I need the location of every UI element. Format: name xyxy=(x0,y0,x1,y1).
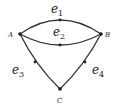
edge-e1-label: e1 xyxy=(51,2,63,18)
vertex-b xyxy=(99,32,103,36)
vertex-a-label: A xyxy=(7,31,13,39)
edge-e3-label: e3 xyxy=(12,63,24,79)
edge-e1-marker xyxy=(59,19,62,22)
edge-e4-marker xyxy=(84,61,87,64)
vertex-a xyxy=(18,32,22,36)
vertex-c xyxy=(58,87,62,91)
vertex-c-label: C xyxy=(57,97,63,105)
graph-diagram: A B C e1 e2 e3 e4 xyxy=(0,0,118,110)
vertex-b-label: B xyxy=(104,31,110,39)
edge-e2-label: e2 xyxy=(53,25,65,41)
edge-e2-marker xyxy=(59,44,62,47)
edge-e3-marker xyxy=(34,61,37,64)
edge-e4-label: e4 xyxy=(92,63,104,79)
